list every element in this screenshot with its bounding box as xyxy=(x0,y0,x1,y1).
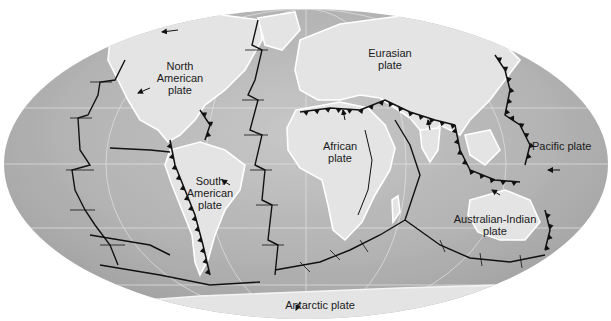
label-african-plate: African plate xyxy=(310,140,370,164)
label-north-american-plate: North American plate xyxy=(145,60,215,96)
label-eurasian-plate: Eurasian plate xyxy=(355,47,425,71)
label-pacific-plate: Pacific plate xyxy=(532,140,611,152)
label-south-american-plate: South American plate xyxy=(175,175,245,211)
world-map xyxy=(0,0,611,321)
label-australian-indian-plate: Australian-Indian plate xyxy=(440,213,550,237)
label-antarctic-plate: Antarctic plate xyxy=(270,299,370,311)
